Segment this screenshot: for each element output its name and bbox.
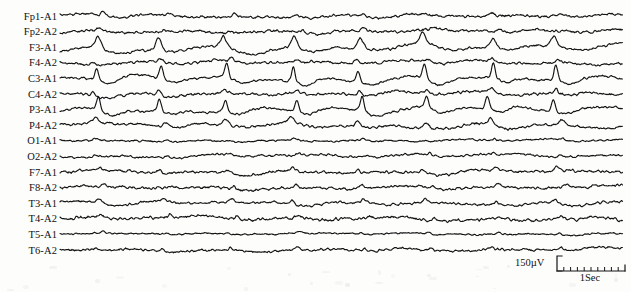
scan-artifact	[375, 282, 382, 284]
eeg-trace-t4-a2	[60, 214, 622, 223]
scan-artifact	[614, 278, 618, 282]
scan-artifact	[483, 266, 489, 269]
scan-artifact	[288, 273, 291, 276]
vertical-scale-bar	[557, 256, 562, 271]
scan-artifact	[378, 270, 381, 275]
eeg-chart-area: Fp1-A1Fp2-A2F3-A1F4-A2C3-A1C4-A2P3-A1P4-…	[0, 0, 631, 292]
eeg-trace-f7-a1	[60, 166, 622, 176]
eeg-trace-p3-a1	[60, 96, 622, 116]
eeg-recording-figure: Fp1-A1Fp2-A2F3-A1F4-A2C3-A1C4-A2P3-A1P4-…	[0, 0, 631, 292]
eeg-trace-t5-a1	[60, 231, 622, 236]
scan-artifact	[507, 265, 510, 268]
eeg-trace-p4-a2	[60, 117, 622, 131]
scan-artifact	[23, 285, 29, 289]
scan-artifact	[162, 284, 168, 288]
time-scale-label: 1Sec	[560, 272, 620, 283]
eeg-trace-layer	[0, 0, 631, 292]
time-tick-marks	[564, 267, 618, 271]
eeg-trace-c3-a1	[60, 63, 622, 86]
scan-artifact	[429, 277, 437, 280]
scan-artifact	[49, 266, 57, 269]
amplitude-scale-label: 150µV	[515, 257, 544, 268]
scan-artifact	[345, 283, 350, 287]
scan-artifact	[95, 279, 101, 283]
eeg-trace-f8-a2	[60, 183, 622, 191]
eeg-trace-fp1-a1	[60, 11, 622, 19]
scan-artifact	[116, 276, 123, 279]
eeg-trace-c4-a2	[60, 87, 622, 98]
eeg-trace-t3-a1	[60, 198, 622, 207]
eeg-trace-fp2-a2	[60, 27, 622, 35]
eeg-trace-o2-a2	[60, 152, 622, 159]
scan-artifact	[244, 287, 247, 291]
eeg-trace-f4-a2	[60, 57, 622, 66]
eeg-trace-f3-a1	[60, 32, 622, 55]
scan-artifact	[615, 274, 617, 277]
eeg-trace-o1-a1	[60, 138, 622, 143]
scan-artifact	[335, 281, 343, 285]
